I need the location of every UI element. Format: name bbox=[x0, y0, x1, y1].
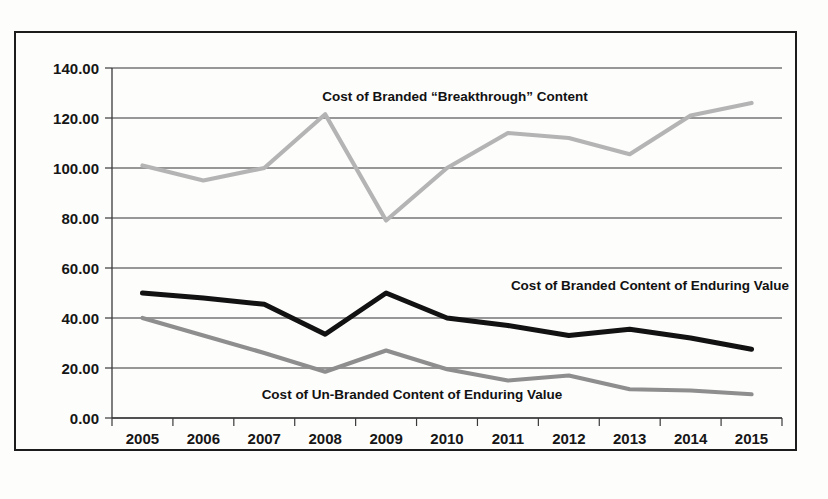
x-axis-tick-label: 2006 bbox=[187, 430, 220, 447]
y-axis-tick-label: 120.00 bbox=[53, 110, 99, 127]
x-axis-tick-label: 2011 bbox=[492, 430, 525, 447]
series-annotation-3: Cost of Un-Branded Content of Enduring V… bbox=[262, 387, 563, 402]
y-axis-tick-labels-group: 140.00120.00100.0080.0060.0040.0020.000.… bbox=[53, 60, 99, 427]
y-axis-ticks-group bbox=[105, 68, 112, 418]
series-annotation-1: Cost of Branded “Breakthrough” Content bbox=[322, 89, 588, 104]
x-axis-tick-label: 2013 bbox=[613, 430, 646, 447]
x-axis-tick-label: 2007 bbox=[248, 430, 281, 447]
data-series-group bbox=[142, 103, 751, 394]
chart-figure: 140.00120.00100.0080.0060.0040.0020.000.… bbox=[0, 0, 828, 499]
y-axis-tick-label: 20.00 bbox=[61, 360, 99, 377]
series-annotation-2: Cost of Branded Content of Enduring Valu… bbox=[511, 278, 790, 293]
y-axis-tick-label: 40.00 bbox=[61, 310, 99, 327]
x-axis-tick-labels-group: 2005200620072008200920102011201220132014… bbox=[126, 430, 768, 447]
x-axis-tick-label: 2015 bbox=[735, 430, 768, 447]
series-line-2 bbox=[142, 293, 751, 349]
x-axis-tick-label: 2014 bbox=[674, 430, 708, 447]
series-line-3 bbox=[142, 318, 751, 394]
series-line-1 bbox=[142, 103, 751, 221]
x-axis-tick-label: 2012 bbox=[552, 430, 585, 447]
x-axis-tick-label: 2010 bbox=[430, 430, 463, 447]
y-axis-tick-label: 0.00 bbox=[70, 410, 99, 427]
line-chart-plot: 140.00120.00100.0080.0060.0040.0020.000.… bbox=[0, 0, 828, 499]
y-axis-tick-label: 140.00 bbox=[53, 60, 99, 77]
y-axis-tick-label: 60.00 bbox=[61, 260, 99, 277]
x-axis-tick-label: 2009 bbox=[369, 430, 402, 447]
x-axis-tick-label: 2005 bbox=[126, 430, 159, 447]
x-axis-tick-label: 2008 bbox=[308, 430, 341, 447]
y-axis-tick-label: 80.00 bbox=[61, 210, 99, 227]
y-axis-tick-label: 100.00 bbox=[53, 160, 99, 177]
